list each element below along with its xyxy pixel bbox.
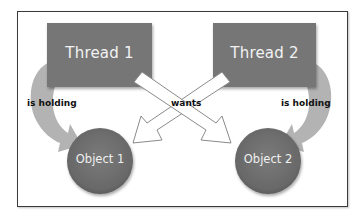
is-holding-label-right: is holding <box>281 98 331 108</box>
thread-2-label: Thread 2 <box>213 44 316 62</box>
wants-label: wants <box>171 98 201 108</box>
thread-1-label: Thread 1 <box>47 44 152 62</box>
is-holding-label-left: is holding <box>27 98 77 108</box>
diagram-graphics <box>0 0 362 218</box>
object-2-label: Object 2 <box>235 152 301 166</box>
object-1-label: Object 1 <box>67 152 133 166</box>
deadlock-diagram: Thread 1 Thread 2 Object 1 Object 2 is h… <box>0 0 362 218</box>
